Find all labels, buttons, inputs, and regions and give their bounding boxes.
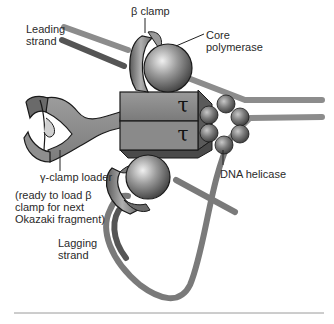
core-polymerase-upper <box>144 44 192 92</box>
core-polymerase-lower <box>126 155 170 199</box>
replisome-diagram: τ τ Leading strand β clamp Core polymera… <box>0 0 334 324</box>
tau-subunit-top: τ <box>177 93 188 117</box>
leading-strand <box>62 27 128 66</box>
beta-clamp-label: β clamp <box>131 5 170 17</box>
clamp-loader-note-line2: clamp for next <box>15 201 84 213</box>
clamp-loader-note-line1: (ready to load β <box>15 189 92 201</box>
lagging-strand <box>106 140 235 298</box>
upper-polymerase-assembly <box>130 32 192 92</box>
clamp-loader-note-line3: Okazaki fragment) <box>15 213 105 225</box>
tau-complex: τ τ <box>120 90 212 158</box>
dna-helicase-label: DNA helicase <box>220 168 286 180</box>
lagging-strand-label: Lagging <box>58 237 97 249</box>
leading-strand-label-line2: strand <box>26 35 57 47</box>
core-polymerase-leader <box>176 34 204 46</box>
tau-subunit-bottom: τ <box>177 122 188 146</box>
core-polymerase-label-line2: polymerase <box>206 41 263 53</box>
leading-strand-label: Leading <box>26 23 65 35</box>
gamma-clamp-loader <box>24 96 132 162</box>
core-polymerase-label: Core <box>206 29 230 41</box>
lower-polymerase-assembly <box>106 155 170 214</box>
gamma-clamp-loader-label: γ-clamp loader <box>40 171 112 183</box>
lagging-strand-label-line2: strand <box>58 249 89 261</box>
